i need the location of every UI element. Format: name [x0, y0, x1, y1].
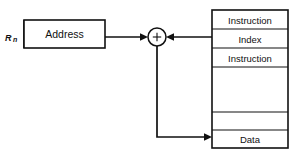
- adder-to-data-line: [157, 46, 206, 137]
- memory-table: Instruction Index Instruction: [212, 10, 288, 148]
- connector-address-to-adder: [105, 33, 148, 41]
- register-rn-main: R: [5, 33, 12, 43]
- memory-row-label: Index: [238, 34, 261, 45]
- register-rn-label: R n: [5, 33, 17, 43]
- connector-adder-to-data: [157, 46, 212, 141]
- memory-table-outline: [212, 10, 288, 148]
- diagram-canvas: R n Address: [0, 0, 296, 159]
- address-box-label: Address: [45, 28, 84, 40]
- connector-index-to-adder: [166, 33, 212, 41]
- adder-to-data-arrowhead: [204, 133, 212, 141]
- address-box: Address: [24, 20, 105, 48]
- index-to-adder-arrowhead: [166, 33, 174, 41]
- memory-row-label: Instruction: [228, 15, 272, 26]
- diagram-svg: R n Address: [0, 0, 296, 159]
- memory-row-label: Instruction: [228, 53, 272, 64]
- address-to-adder-arrowhead: [140, 33, 148, 41]
- table-row: Data: [240, 134, 261, 145]
- register-rn-subscript: n: [13, 36, 17, 43]
- memory-row-label: Data: [240, 134, 261, 145]
- adder-node: [148, 28, 166, 46]
